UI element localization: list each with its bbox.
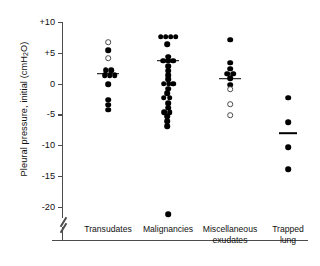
y-tick-mark [58, 207, 63, 208]
y-tick-label: -5 [47, 109, 55, 119]
scatter-plot-figure: Pleural pressure, initial (cmH2O) +10+50… [0, 0, 320, 266]
data-point [227, 37, 233, 43]
data-point [285, 167, 291, 173]
y-tick-label: -10 [42, 140, 55, 150]
mean-line [279, 132, 297, 134]
x-category-label-miscellaneous-exudates: Miscellaneous exudates [203, 224, 257, 245]
data-point [285, 144, 291, 150]
y-axis-title-post: O) [19, 42, 29, 52]
data-point [227, 60, 233, 66]
plot-area: +10+50-5-10-15-20 [62, 22, 308, 218]
y-tick-mark [58, 145, 63, 146]
data-point [285, 95, 291, 101]
data-point [227, 112, 233, 118]
mean-line [97, 73, 119, 75]
data-point [227, 86, 233, 92]
data-point [105, 107, 111, 113]
y-axis-title: Pleural pressure, initial (cmH2O) [19, 9, 29, 209]
y-tick-mark [58, 22, 63, 23]
y-tick-label: 0 [50, 79, 55, 89]
y-tick-mark [58, 53, 63, 54]
y-tick-label: -20 [42, 202, 55, 212]
x-category-label-trapped-lung: Trapped lung [272, 224, 304, 245]
data-point [165, 212, 171, 218]
y-axis-title-subscript: 2 [22, 52, 29, 56]
x-category-label-malignancies: Malignancies [143, 224, 193, 235]
mean-line [219, 78, 241, 80]
data-point [164, 41, 170, 47]
data-point [161, 95, 167, 101]
y-tick-mark [58, 176, 63, 177]
y-tick-label: -15 [42, 171, 55, 181]
data-point [105, 40, 111, 46]
data-point [173, 34, 179, 40]
mean-line [157, 60, 179, 62]
data-point [227, 101, 233, 107]
y-tick-label: +5 [45, 48, 55, 58]
y-tick-label: +10 [39, 17, 55, 27]
data-point [285, 120, 291, 126]
data-point [105, 56, 111, 62]
data-point [170, 81, 176, 87]
data-point [164, 123, 170, 129]
y-axis-line [62, 22, 63, 218]
y-tick-mark [58, 84, 63, 85]
y-tick-mark [58, 114, 63, 115]
data-point [105, 81, 111, 87]
data-point [105, 48, 111, 54]
x-axis-line [52, 240, 308, 241]
y-axis-title-pre: Pleural pressure, initial (cmH [19, 56, 29, 176]
x-category-label-transudates: Transudates [84, 224, 131, 235]
